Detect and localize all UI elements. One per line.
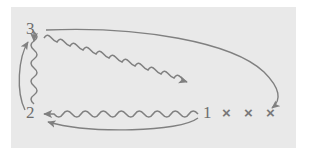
wavy-2-to-3 (31, 32, 37, 104)
x-mark-3: × (266, 105, 275, 120)
curve-3-to-x-marks (46, 29, 278, 108)
state-label-3: 3 (26, 20, 35, 37)
diagram-canvas (0, 0, 312, 160)
state-label-1: 1 (203, 104, 212, 121)
curve-1-to-2 (48, 118, 198, 130)
x-mark-2: × (244, 105, 253, 120)
wavy-1-to-2 (44, 111, 198, 117)
wavy-3-to-1 (44, 35, 187, 82)
state-label-2: 2 (26, 104, 35, 121)
curve-2-to-3 (19, 42, 28, 110)
figure-root: 3 2 1 × × × (0, 0, 312, 160)
x-mark-1: × (222, 105, 231, 120)
